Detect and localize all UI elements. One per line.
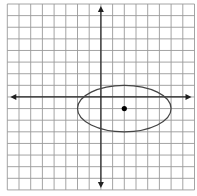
y-axis-down-arrow-icon	[98, 182, 104, 188]
coordinate-plane	[0, 0, 197, 196]
ellipse-center-point	[122, 106, 127, 111]
x-axis-right-arrow-icon	[186, 94, 192, 100]
x-axis-left-arrow-icon	[10, 94, 16, 100]
y-axis-up-arrow-icon	[98, 6, 104, 12]
